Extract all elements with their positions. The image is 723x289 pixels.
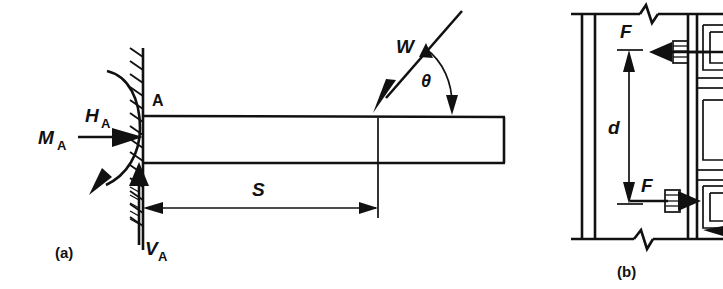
distance-dimension-line	[617, 50, 643, 204]
vertical-reaction-label-base: V	[145, 238, 159, 259]
moment-label: M A	[38, 127, 67, 153]
moment-label-sub: A	[57, 138, 67, 153]
force-top-arrowhead	[649, 42, 672, 62]
horizontal-reaction-arrow	[78, 128, 143, 147]
moment-arrowhead	[89, 168, 112, 195]
distance-arrowhead-top	[623, 50, 635, 72]
vertical-reaction-label: V A	[145, 238, 168, 264]
distance-label: d	[608, 117, 620, 138]
vertical-reaction-label-sub: A	[158, 249, 168, 264]
panel-b-caption: (b)	[617, 263, 636, 280]
applied-load-label: W	[396, 36, 416, 57]
span-arrowhead-right	[359, 202, 378, 214]
bolt-bottom-hatching	[665, 195, 680, 206]
angle-label: θ	[421, 71, 431, 91]
horizontal-reaction-label-base: H	[85, 105, 100, 126]
panel-a-group: A M A H A V A W θ S (a)	[38, 11, 505, 264]
horizontal-reaction-label-sub: A	[101, 116, 111, 131]
support-label-a: A	[152, 92, 164, 109]
vertical-reaction-arrow	[129, 162, 149, 245]
applied-load-arrowhead	[373, 79, 396, 113]
span-arrowhead-left	[143, 202, 163, 214]
engineering-diagram-svg: A M A H A V A W θ S (a)	[0, 0, 723, 289]
bolt-top-hatching	[673, 46, 688, 57]
angle-arc-head-lower	[446, 95, 458, 115]
span-dimension-line	[143, 202, 378, 214]
figure-container: A M A H A V A W θ S (a)	[0, 0, 723, 289]
beam-outline	[144, 116, 505, 163]
horizontal-reaction-label: H A	[85, 105, 111, 131]
panel-a-caption: (a)	[55, 244, 73, 261]
span-label: S	[252, 179, 265, 200]
force-bottom-label: F	[641, 175, 654, 196]
moment-label-base: M	[38, 127, 55, 148]
bolt-bottom	[665, 190, 680, 212]
force-top-label: F	[620, 21, 633, 42]
panel-b-group: F F d (b)	[571, 5, 723, 280]
bracket-detail-shapes	[697, 25, 723, 228]
